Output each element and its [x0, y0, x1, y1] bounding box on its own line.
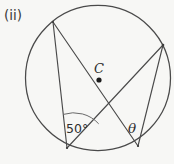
part-label: (ii)	[4, 7, 22, 23]
chord-top-left-to-bottom-left	[53, 22, 67, 148]
circle-theorem-diagram: (ii) C 50° θ	[0, 0, 174, 164]
figure-container: (ii) C 50° θ	[0, 0, 174, 164]
vertex-dot-bottom-right	[137, 145, 139, 147]
vertex-dot-right	[162, 44, 165, 47]
center-label-C: C	[94, 61, 104, 76]
angle-label-50-degrees: 50°	[66, 121, 88, 136]
vertex-dot-top-left	[52, 21, 54, 23]
vertex-dot-bottom-left	[66, 147, 68, 149]
center-dot	[96, 77, 101, 82]
chord-right-to-bottom-right	[138, 45, 163, 146]
angle-label-theta: θ	[128, 120, 136, 136]
